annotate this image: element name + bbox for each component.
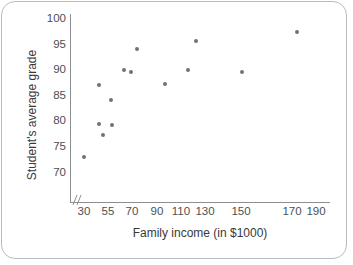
data-point [295,30,299,34]
data-point [97,83,101,87]
y-tick-label: 100 [40,13,66,25]
data-point [240,70,244,74]
x-axis-title: Family income (in $1000) [70,226,330,240]
y-axis-tick-labels: 707580859095100 [38,0,66,265]
data-point [101,133,105,137]
data-point [163,82,167,86]
data-point [82,155,86,159]
data-point [122,68,126,72]
y-axis-line [70,14,71,203]
data-point [194,39,198,43]
y-tick-label: 80 [40,115,66,127]
data-point [135,47,139,51]
y-tick-label: 70 [40,167,66,179]
plot-area: 707580859095100 30557090110130150170190 … [0,0,353,265]
data-point [129,70,133,74]
x-tick-label: 150 [226,206,256,218]
y-tick-label: 75 [40,141,66,153]
x-tick-label: 190 [301,206,331,218]
data-point [186,68,190,72]
data-point [109,98,113,102]
scatter-plot-figure: 707580859095100 30557090110130150170190 … [0,0,353,265]
x-tick-label: 130 [190,206,220,218]
data-point [110,123,114,127]
y-tick-label: 90 [40,64,66,76]
data-point [97,122,101,126]
y-tick-label: 95 [40,39,66,51]
y-axis-title: Student's average grade [25,20,39,210]
y-tick-label: 85 [40,90,66,102]
x-axis-line [70,202,330,203]
